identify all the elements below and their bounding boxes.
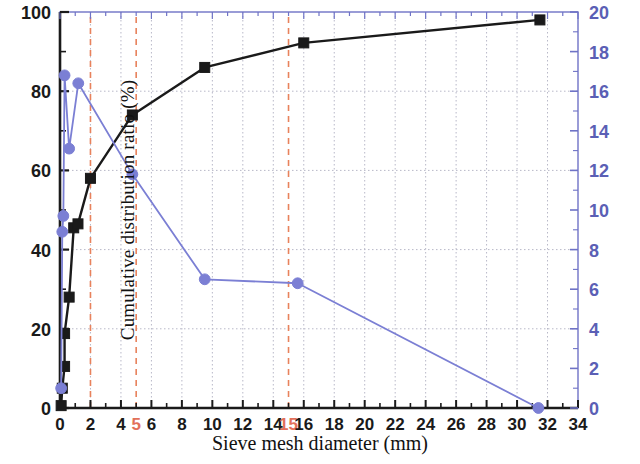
y-axis-right-tick-label: 8 (589, 241, 599, 261)
data-point-circle (57, 226, 68, 237)
data-point-square (56, 401, 66, 411)
data-point-circle (533, 403, 544, 414)
x-axis-title: Sieve mesh diameter (mm) (0, 432, 640, 455)
data-point-circle (58, 211, 69, 222)
y-axis-left-tick-label: 20 (31, 320, 51, 340)
right-axis-title-wrap: Interval distribution ratio (%) (612, 0, 640, 420)
left-axis-title: Cumulative distribution ratio (%) (117, 80, 139, 340)
y-axis-right-tick-label: 0 (589, 399, 599, 419)
data-point-circle (292, 278, 303, 289)
y-axis-right-tick-label: 18 (589, 43, 609, 63)
y-axis-left-tick-label: 40 (31, 241, 51, 261)
y-axis-right-tick-label: 12 (589, 161, 609, 181)
y-axis-right-tick-label: 6 (589, 280, 599, 300)
y-axis-right-tick-label: 16 (589, 82, 609, 102)
left-axis-title-wrap: Cumulative distribution ratio (%) (0, 0, 26, 420)
data-point-square (85, 173, 95, 183)
y-axis-left-tick-label: 60 (31, 161, 51, 181)
y-axis-right-tick-label: 4 (589, 320, 599, 340)
data-point-square (200, 62, 210, 72)
data-point-square (299, 38, 309, 48)
data-point-square (73, 219, 83, 229)
y-axis-right-tick-label: 2 (589, 359, 599, 379)
data-point-circle (56, 383, 67, 394)
y-axis-left-tick-label: 0 (41, 399, 51, 419)
y-axis-right-tick-label: 10 (589, 201, 609, 221)
chart-figure: Cumulative distribution ratio (%) Interv… (0, 0, 640, 464)
data-point-circle (73, 78, 84, 89)
data-point-square (535, 15, 545, 25)
data-point-circle (59, 70, 70, 81)
y-axis-left-tick-label: 80 (31, 82, 51, 102)
y-axis-right-tick-label: 14 (589, 122, 609, 142)
y-axis-right-tick-label: 20 (589, 3, 609, 23)
data-point-circle (64, 143, 75, 154)
plot-canvas: 0245681012141516182022242628303234020406… (0, 0, 640, 464)
data-point-square (64, 292, 74, 302)
data-point-circle (199, 274, 210, 285)
